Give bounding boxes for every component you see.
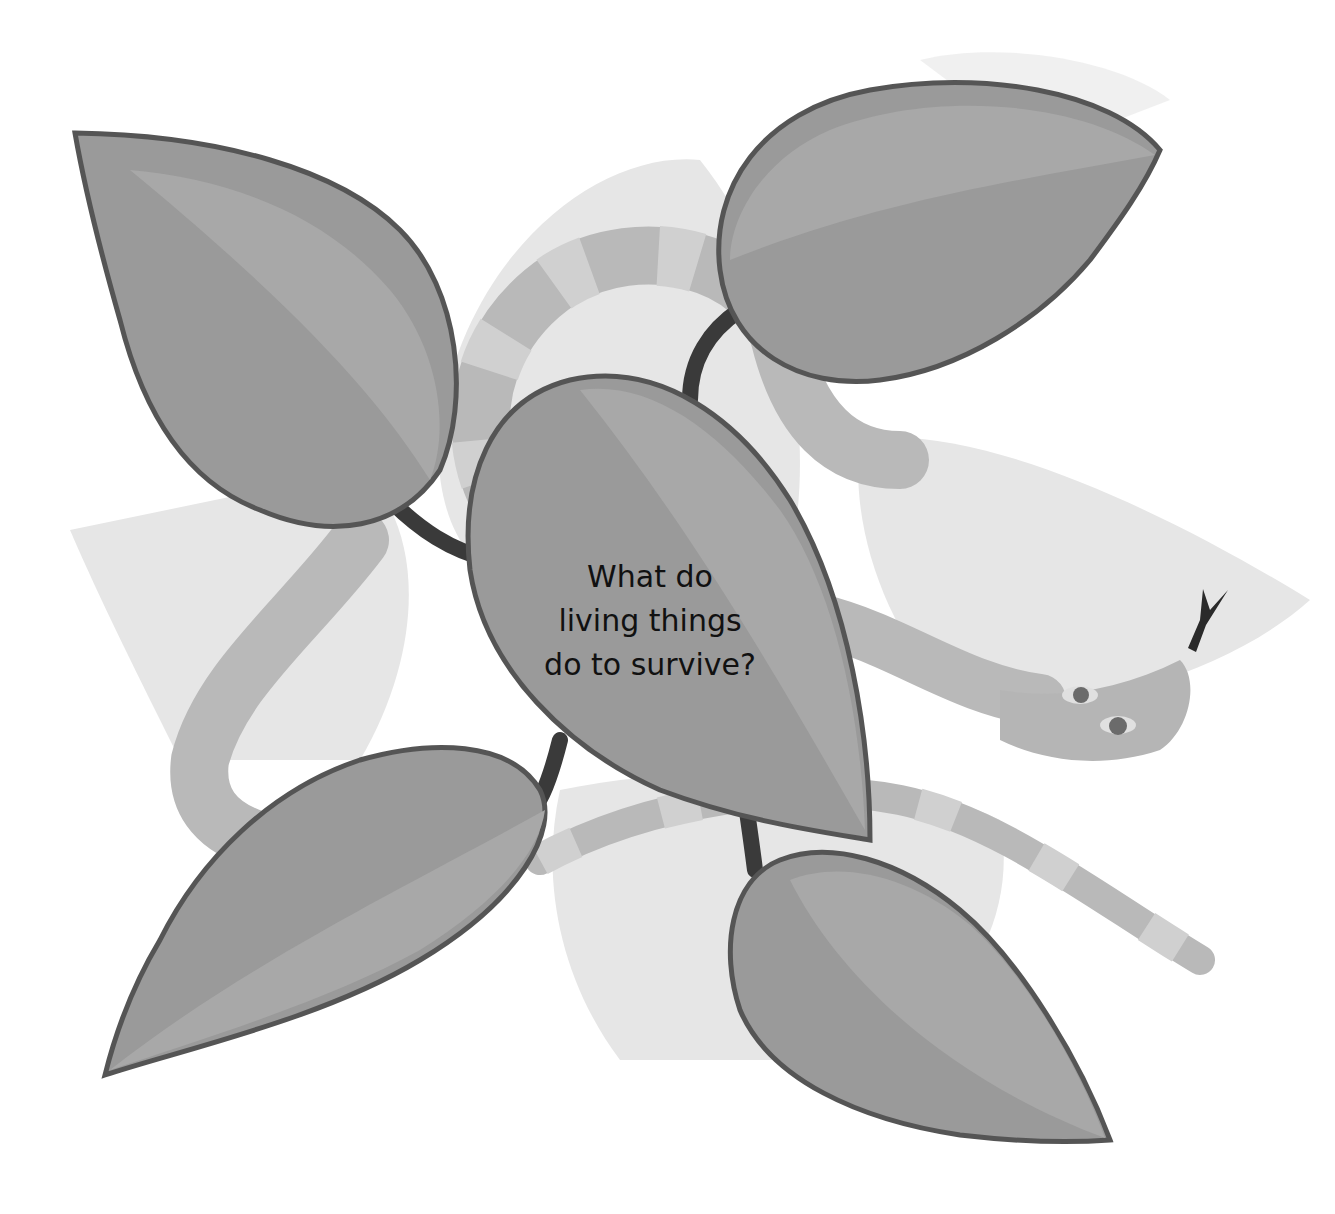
leaf-top-left [75, 133, 456, 526]
leaf-bottom-right [730, 852, 1110, 1141]
central-question-line-3: do to survive? [500, 643, 800, 687]
central-question-line-2: living things [500, 599, 800, 643]
leaf-bottom-left [105, 748, 545, 1075]
leaf-top-right [719, 83, 1160, 382]
central-question-line-1: What do [500, 555, 800, 599]
central-question: What do living things do to survive? [500, 555, 800, 687]
